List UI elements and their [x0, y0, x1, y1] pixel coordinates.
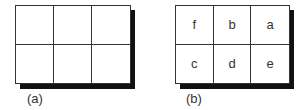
grid-cell: f	[176, 6, 214, 45]
grid-cell: d	[214, 45, 252, 84]
grid-cell: c	[176, 45, 214, 84]
grid-cell	[54, 6, 92, 45]
panel-a-caption: (a)	[27, 91, 43, 106]
grid-cell: a	[251, 6, 289, 45]
grid-cell	[16, 45, 54, 84]
grid-cell: e	[251, 45, 289, 84]
grid-cell: b	[214, 6, 252, 45]
panel-a-grid	[15, 5, 131, 84]
panel-b-caption: (b)	[186, 91, 202, 106]
grid-cell	[92, 6, 130, 45]
panel-b-grid: f b a c d e	[175, 5, 290, 84]
grid-cell	[16, 6, 54, 45]
grid-cell	[54, 45, 92, 84]
grid-cell	[92, 45, 130, 84]
